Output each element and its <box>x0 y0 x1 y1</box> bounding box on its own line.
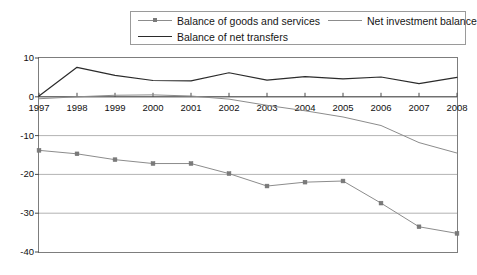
data-point-marker <box>189 162 193 166</box>
data-point-marker <box>417 225 421 229</box>
data-point-marker <box>75 152 79 156</box>
data-point-marker <box>455 231 459 235</box>
data-point-marker <box>341 179 345 183</box>
series-line-net-investment-balance <box>39 95 457 153</box>
data-point-marker <box>265 184 269 188</box>
data-point-marker <box>379 201 383 205</box>
data-point-marker <box>113 158 117 162</box>
series-line-balance-of-goods-and-services <box>39 150 457 233</box>
series-line-balance-of-net-transfers <box>39 67 457 96</box>
data-point-marker <box>303 180 307 184</box>
data-point-marker <box>227 172 231 176</box>
data-point-marker <box>151 162 155 166</box>
data-point-marker <box>37 148 41 152</box>
